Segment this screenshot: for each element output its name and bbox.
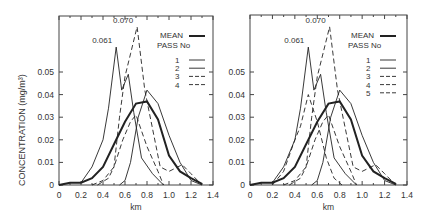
series-line-mean [250, 101, 396, 185]
y-tick-label: 0.04 [37, 90, 54, 100]
series-line-2 [120, 90, 203, 185]
series-line-1 [272, 47, 356, 185]
y-tick-label: 0.02 [37, 135, 54, 145]
series-line-1 [81, 47, 164, 185]
peak-annotation: 0.061 [284, 36, 305, 45]
x-tick-label: 1.4 [207, 190, 219, 200]
x-axis-label: km [130, 202, 141, 212]
y-axis-label: CONCENTRATION (mg/m³) [17, 74, 27, 186]
y-tick-label: 0.03 [37, 112, 54, 122]
x-tick-label: 0.2 [75, 190, 87, 200]
peak-annotation: 0.061 [92, 36, 113, 45]
y-tick-label: 0.02 [228, 135, 245, 145]
x-tick-label: 0 [57, 190, 62, 200]
x-axis-label: km [323, 202, 334, 212]
y-tick-label: 0.03 [228, 112, 245, 122]
x-tick-label: 0.8 [141, 190, 153, 200]
x-tick-label: 1.2 [379, 190, 391, 200]
x-tick-label: 0.4 [97, 190, 109, 200]
x-tick-label: 0.4 [289, 190, 301, 200]
plot-frame [250, 15, 407, 185]
chart-panel-left: 00.20.40.60.81.01.21.4km00.010.020.030.0… [37, 16, 219, 212]
x-tick-label: 0.2 [267, 190, 279, 200]
y-tick-label: 0.04 [228, 90, 245, 100]
x-tick-label: 1.0 [163, 190, 175, 200]
legend-header: PASS No [348, 41, 382, 50]
x-tick-label: 0.6 [311, 190, 323, 200]
x-tick-label: 0.8 [334, 190, 346, 200]
series-line-2 [312, 90, 396, 185]
legend-header: PASS No [157, 41, 191, 50]
chart-panel-right: 00.20.40.60.81.01.21.4km00.010.020.030.0… [228, 15, 413, 212]
y-tick-label: 0.01 [37, 157, 54, 167]
y-tick-label: 0 [49, 180, 54, 190]
legend-mean-label: MEAN [351, 31, 374, 40]
peak-annotation: 0.070 [306, 16, 327, 25]
legend-pass-label: 5 [366, 89, 371, 98]
y-tick-label: 0.05 [228, 67, 245, 77]
figure: CONCENTRATION (mg/m³) 00.20.40.60.81.01.… [0, 0, 435, 219]
series-line-mean [59, 101, 202, 185]
x-tick-label: 1.4 [401, 190, 413, 200]
y-tick-label: 0.05 [37, 67, 54, 77]
x-tick-label: 1.2 [185, 190, 197, 200]
peak-annotation: 0.070 [113, 16, 134, 25]
x-tick-label: 0 [248, 190, 253, 200]
legend-pass-label: 4 [175, 81, 180, 90]
x-tick-label: 0.6 [119, 190, 131, 200]
series-line-5 [272, 95, 342, 185]
y-tick-label: 0.01 [228, 157, 245, 167]
x-tick-label: 1.0 [356, 190, 368, 200]
y-tick-label: 0 [240, 180, 245, 190]
legend-mean-label: MEAN [160, 31, 183, 40]
